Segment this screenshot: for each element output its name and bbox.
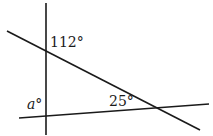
diagonal-line <box>7 31 200 130</box>
angle-label-a: a° <box>27 97 42 111</box>
angle-label-25: 25° <box>109 94 134 108</box>
angle-diagram <box>0 0 213 136</box>
angle-label-112: 112° <box>50 35 84 49</box>
